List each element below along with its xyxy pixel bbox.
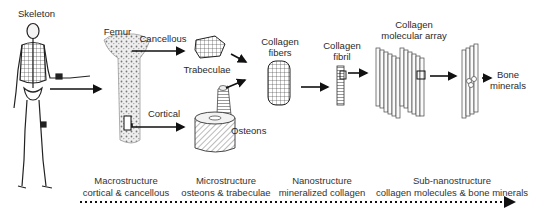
scale-level-subnano-detail: collagen molecules & bone minerals — [372, 187, 532, 199]
label-osteons: Osteons — [231, 125, 266, 136]
label-collagen-fibril-line2: fibril — [320, 51, 364, 62]
label-collagen-fibers-line2: fibers — [258, 47, 302, 58]
label-trabeculae: Trabeculae — [182, 64, 232, 75]
label-skeleton: Skeleton — [18, 8, 50, 19]
scale-level-micro: Microstructure osteons & trabeculae — [176, 175, 276, 199]
label-collagen-molecular-array: Collagen molecular array — [374, 19, 454, 41]
label-collagen-fibril: Collagen fibril — [320, 40, 364, 62]
scale-level-micro-title: Microstructure — [176, 175, 276, 187]
arrow-trabeculae-fibers — [231, 54, 246, 62]
label-collagen-fibril-line1: Collagen — [320, 40, 364, 51]
label-bone-minerals-line2: minerals — [490, 80, 526, 91]
scale-level-macro-title: Macrostructure — [76, 175, 176, 187]
collagen-fibril-illustration — [337, 66, 346, 105]
collagen-molecular-array-illustration — [376, 48, 425, 118]
mineral-detail-illustration — [462, 44, 478, 118]
scale-level-macro-detail: cortical & cancellous — [76, 187, 176, 199]
scale-level-subnano-title: Sub-nanostructure — [372, 175, 532, 187]
label-cortical: Cortical — [144, 108, 184, 119]
osteons-illustration — [195, 86, 235, 153]
label-bone-minerals: Bone minerals — [490, 69, 526, 91]
scale-level-nano-detail: mineralized collagen — [272, 187, 372, 199]
label-collagen-array-line2: molecular array — [374, 30, 454, 41]
scale-level-subnano: Sub-nanostructure collagen molecules & b… — [372, 175, 532, 199]
label-collagen-array-line1: Collagen — [374, 19, 454, 30]
label-collagen-fibers-line1: Collagen — [258, 36, 302, 47]
skeleton-illustration — [14, 24, 90, 189]
trabeculae-illustration — [195, 36, 225, 58]
label-femur: Femur — [100, 26, 135, 37]
scale-level-macro: Macrostructure cortical & cancellous — [76, 175, 176, 199]
label-collagen-fibers: Collagen fibers — [258, 36, 302, 58]
scale-level-micro-detail: osteons & trabeculae — [176, 187, 276, 199]
scale-level-nano: Nanostructure mineralized collagen — [272, 175, 372, 199]
scale-level-nano-title: Nanostructure — [272, 175, 372, 187]
arrow-osteons-fibers — [226, 80, 245, 88]
label-cancellous: Cancellous — [138, 33, 188, 44]
label-bone-minerals-line1: Bone — [490, 69, 526, 80]
collagen-fibers-illustration — [268, 61, 290, 105]
